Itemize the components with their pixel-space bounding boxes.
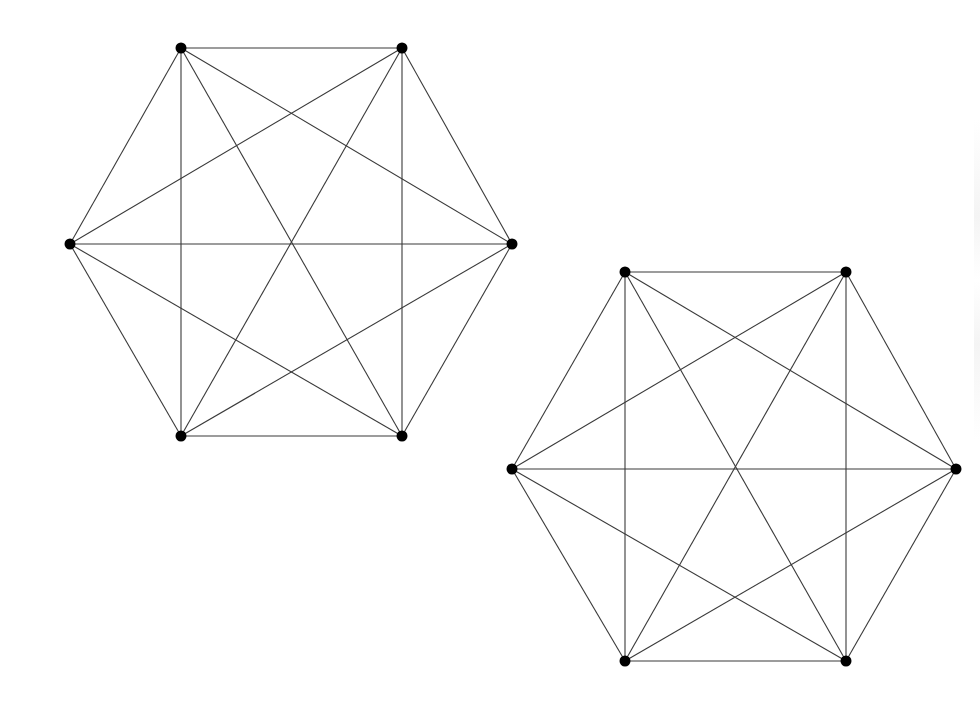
graph-diagram-canvas <box>0 0 980 720</box>
graph-edge <box>512 469 846 661</box>
graph-vertex <box>397 431 408 442</box>
page-edge-shadow <box>974 120 980 440</box>
graph-edge <box>512 272 625 469</box>
graph-vertex <box>507 464 518 475</box>
graph-vertex <box>176 431 187 442</box>
graph-vertex <box>397 43 408 54</box>
graph-vertex <box>507 239 518 250</box>
graph-edge <box>70 48 402 244</box>
graph-edge <box>846 469 956 661</box>
graph-edge <box>70 48 181 244</box>
graph-edge <box>70 244 402 436</box>
graph-edge <box>512 272 846 469</box>
graph-vertex <box>65 239 76 250</box>
graph-vertex <box>951 464 962 475</box>
graph-vertex <box>620 656 631 667</box>
graph-edge <box>402 48 512 244</box>
graph-edge <box>70 244 181 436</box>
graph-vertex <box>841 656 852 667</box>
graph-vertex <box>620 267 631 278</box>
complete-graph-left <box>65 43 518 442</box>
graph-edge <box>181 244 512 436</box>
graph-edge <box>402 244 512 436</box>
graph-edge <box>625 469 956 661</box>
complete-graph-right <box>507 267 962 667</box>
graph-vertex <box>841 267 852 278</box>
graph-vertex <box>176 43 187 54</box>
graph-edge <box>846 272 956 469</box>
graph-edge <box>512 469 625 661</box>
